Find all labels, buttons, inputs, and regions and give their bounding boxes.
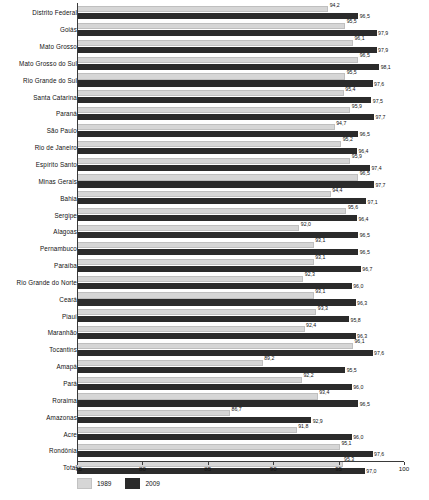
bar-track-2009: 96,4: [77, 215, 404, 221]
chart-row: Alagoas92,096,5: [0, 223, 429, 240]
category-label: Tocantins: [49, 346, 77, 353]
bar-value-label: 96,5: [360, 52, 370, 58]
bar-track-1989: 86,7: [77, 410, 404, 416]
bar-1989: [77, 377, 302, 383]
chart-row: Ceará93,196,3: [0, 290, 429, 307]
bar-value-label: 95,9: [352, 103, 362, 109]
bar-2009: [77, 350, 373, 356]
bar-track-2009: 96,0: [77, 384, 404, 390]
horizontal-bar-chart: Distrito Federal94,296,5Goiás95,597,9Mat…: [0, 0, 429, 500]
bar-2009: [77, 400, 358, 406]
bar-value-label: 96,5: [360, 131, 370, 137]
bar-1989: [77, 90, 344, 96]
bar-1989: [77, 242, 314, 248]
bar-1989: [77, 158, 350, 164]
bar-track-2009: 96,5: [77, 232, 404, 238]
bar-2009: [77, 417, 311, 423]
chart-legend: 19892009: [77, 478, 160, 489]
bar-value-label: 96,0: [353, 283, 363, 289]
category-label: Paraíba: [54, 262, 77, 269]
bar-group: 93,196,5: [77, 240, 404, 257]
bar-value-label: 97,4: [371, 165, 381, 171]
bar-1989: [77, 208, 346, 214]
bar-value-label: 95,9: [352, 153, 362, 159]
bar-value-label: 96,0: [353, 434, 363, 440]
bar-track-1989: 92,4: [77, 326, 404, 332]
bar-track-2009: 96,5: [77, 131, 404, 137]
bar-value-label: 96,0: [353, 384, 363, 390]
category-label: Paraná: [56, 110, 77, 117]
bar-group: 92,296,0: [77, 375, 404, 392]
chart-row: Minas Gerais96,597,7: [0, 172, 429, 189]
x-tick-label: 75: [75, 465, 82, 472]
category-label: Bahia: [60, 194, 77, 201]
y-axis-line: [77, 3, 78, 462]
category-label: Santa Catarina: [33, 93, 77, 100]
chart-row: Bahia94,497,1: [0, 189, 429, 206]
chart-row: São Paulo94,796,5: [0, 122, 429, 139]
bar-group: 95,997,7: [77, 105, 404, 122]
bar-2009: [77, 131, 358, 137]
bar-group: 94,796,5: [77, 122, 404, 139]
bar-2009: [77, 283, 352, 289]
bar-track-2009: 92,9: [77, 417, 404, 423]
category-label: Espírito Santo: [36, 161, 77, 168]
bar-group: 95,997,4: [77, 156, 404, 173]
bar-value-label: 96,5: [360, 232, 370, 238]
chart-row: Sergipe95,696,4: [0, 206, 429, 223]
chart-row: Santa Catarina95,497,5: [0, 88, 429, 105]
bar-2009: [77, 198, 366, 204]
bar-1989: [77, 6, 328, 12]
bar-track-2009: 96,3: [77, 299, 404, 305]
category-label: Ceará: [59, 295, 77, 302]
bar-1989: [77, 191, 331, 197]
chart-row: Amapá89,295,5: [0, 358, 429, 375]
bar-track-2009: 96,0: [77, 434, 404, 440]
legend-label: 2009: [145, 480, 159, 487]
bar-value-label: 92,9: [313, 418, 323, 424]
bar-value-label: 96,3: [357, 300, 367, 306]
category-label: Amapá: [56, 363, 77, 370]
legend-swatch: [77, 478, 92, 489]
bar-track-1989: 91,8: [77, 427, 404, 433]
bar-value-label: 95,6: [348, 204, 358, 210]
bar-2009: [77, 181, 374, 187]
bar-2009: [77, 114, 374, 120]
bar-value-label: 96,5: [360, 401, 370, 407]
bar-value-label: 94,4: [332, 187, 342, 193]
bar-1989: [77, 393, 318, 399]
bar-2009: [77, 13, 358, 19]
bar-1989: [77, 259, 314, 265]
bar-2009: [77, 384, 352, 390]
bar-value-label: 95,8: [351, 317, 361, 323]
bar-track-2009: 96,5: [77, 249, 404, 255]
bar-value-label: 92,2: [303, 372, 313, 378]
category-label: Mato Grosso do Sul: [19, 59, 77, 66]
bar-value-label: 97,7: [375, 182, 385, 188]
bar-group: 86,792,9: [77, 408, 404, 425]
bar-track-1989: 92,2: [77, 377, 404, 383]
bar-value-label: 95,1: [341, 440, 351, 446]
bar-value-label: 96,4: [358, 216, 368, 222]
bar-2009: [77, 333, 356, 339]
category-label: Minas Gerais: [38, 177, 77, 184]
bar-1989: [77, 40, 353, 46]
bar-value-label: 93,4: [319, 389, 329, 395]
chart-row: Rio Grande do Norte92,396,0: [0, 274, 429, 291]
bar-value-label: 97,9: [378, 47, 388, 53]
legend-label: 1989: [97, 480, 111, 487]
bar-value-label: 96,5: [360, 249, 370, 255]
bar-value-label: 96,1: [354, 35, 364, 41]
bar-track-1989: 93,4: [77, 393, 404, 399]
bar-track-2009: 97,7: [77, 114, 404, 120]
bar-track-1989: 94,7: [77, 124, 404, 130]
x-tick-label: 100: [399, 465, 409, 472]
bar-value-label: 93,1: [315, 254, 325, 260]
chart-row: Piauí93,395,8: [0, 307, 429, 324]
category-label: Rio de Janeiro: [35, 144, 77, 151]
bar-track-1989: 95,9: [77, 158, 404, 164]
bar-track-1989: 96,5: [77, 57, 404, 63]
category-label: Pernambuco: [40, 245, 77, 252]
bar-2009: [77, 80, 373, 86]
bar-2009: [77, 97, 371, 103]
